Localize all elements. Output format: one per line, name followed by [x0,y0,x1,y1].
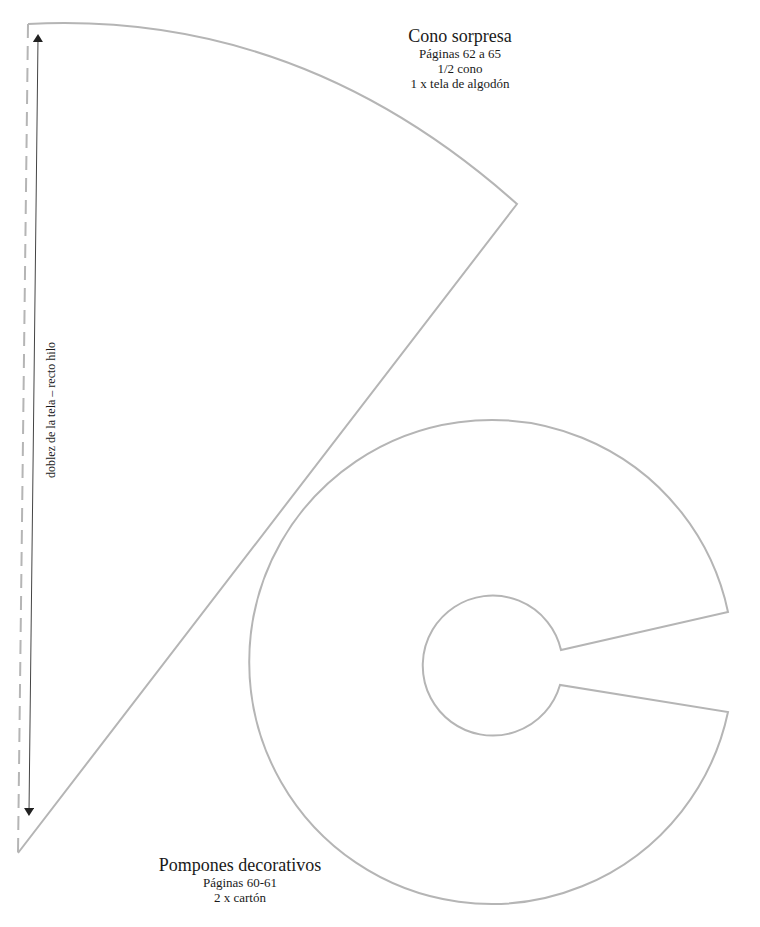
grainline-arrow-icon [29,38,38,812]
pompom-title: Pompones decorativos [140,855,340,876]
cone-pages: Páginas 62 a 65 [355,47,565,62]
cone-pattern-piece [18,23,517,853]
sewing-pattern-sheet [0,0,760,927]
fold-dashed-line [18,24,28,853]
pompom-pattern-label: Pompones decorativos Páginas 60-61 2 x c… [140,855,340,906]
pompom-material: 2 x cartón [140,891,340,906]
cone-title: Cono sorpresa [355,26,565,47]
cone-pattern-label: Cono sorpresa Páginas 62 a 65 1/2 cono 1… [355,26,565,92]
pompom-pages: Páginas 60-61 [140,876,340,891]
cone-portion: 1/2 cono [355,62,565,77]
cone-material: 1 x tela de algodón [355,77,565,92]
pompom-pattern-piece [249,420,728,904]
cone-outline [18,23,517,853]
fold-grainline-label: doblez de la tela – recto hilo [44,342,59,478]
pompom-outline [249,420,728,904]
